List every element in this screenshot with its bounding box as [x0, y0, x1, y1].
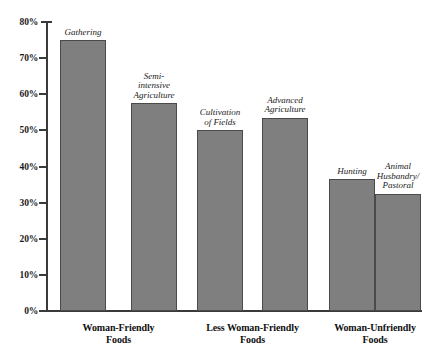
y-axis-tick-label: 30% [4, 198, 38, 208]
y-axis-tick-label: 40% [4, 162, 38, 172]
bar-label: Semi-intensiveAgriculture [133, 72, 174, 101]
y-axis-tick [39, 310, 46, 312]
x-axis-group-label: Woman-UnfriendlyFoods [300, 322, 427, 346]
bar-group-item: Gathering [60, 40, 106, 311]
y-axis-tick-label: 0% [4, 306, 38, 316]
bar [262, 118, 308, 311]
bar-label: Cultivationof Fields [200, 108, 241, 127]
y-axis-tick-label: 50% [4, 125, 38, 135]
y-axis-tick [39, 166, 46, 168]
y-axis-tick-label: 60% [4, 89, 38, 99]
bar [197, 130, 243, 311]
bar [375, 194, 421, 311]
y-axis-tick [39, 238, 46, 240]
y-axis-tick [39, 202, 46, 204]
group-label-line: Foods [300, 334, 427, 346]
group-label-line: Woman-Unfriendly [300, 322, 427, 334]
bar-label: Gathering [65, 28, 102, 38]
bar-group-item: Hunting [329, 179, 375, 311]
y-axis-tick-label: 20% [4, 234, 38, 244]
plot-area: GatheringSemi-intensiveAgricultureCultiv… [46, 22, 421, 311]
bar-label: AnimalHusbandry/Pastoral [377, 162, 420, 191]
group-label-line: Woman-Friendly [44, 322, 194, 334]
y-axis-tick [39, 93, 46, 95]
y-axis-tick-labels: 80%70%60%50%40%30%20%10%0% [0, 0, 38, 359]
bar-label: AdvancedAgriculture [264, 96, 305, 115]
bar [329, 179, 375, 311]
bar [131, 103, 177, 311]
y-axis-tick-label: 80% [4, 17, 38, 27]
bar-group-item: Semi-intensiveAgriculture [131, 103, 177, 311]
bar [60, 40, 106, 311]
bar-group-item: AnimalHusbandry/Pastoral [375, 194, 421, 311]
group-label-line: Foods [44, 334, 194, 346]
y-axis-tick-label: 70% [4, 53, 38, 63]
y-axis-tick [41, 21, 52, 23]
bar-label: Hunting [337, 167, 367, 177]
x-axis-group-label: Woman-FriendlyFoods [44, 322, 194, 346]
y-axis-tick [39, 129, 46, 131]
bar-group-item: AdvancedAgriculture [262, 118, 308, 311]
bar-group-item: Cultivationof Fields [197, 130, 243, 311]
bar-chart: 80%70%60%50%40%30%20%10%0% GatheringSemi… [0, 0, 427, 359]
y-axis-tick [39, 274, 46, 276]
y-axis-tick-label: 10% [4, 270, 38, 280]
y-axis-tick [39, 57, 46, 59]
